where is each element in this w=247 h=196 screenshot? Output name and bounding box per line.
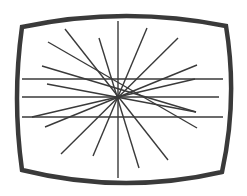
radial-lines [32, 21, 197, 178]
tv-radial-lines-illustration [0, 0, 247, 196]
tv-screen-frame [17, 16, 231, 183]
diagram-canvas [0, 0, 247, 196]
center-point [116, 95, 120, 99]
